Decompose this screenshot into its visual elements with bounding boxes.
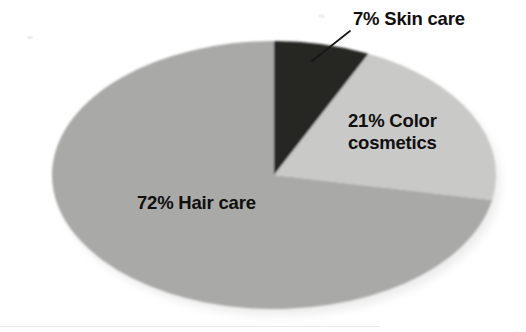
pie-label-color-cosmetics-line1: 21% Color: [348, 110, 437, 131]
pie-label-color-cosmetics: 21% Colorcosmetics: [348, 110, 437, 154]
pie-grain-overlay: [52, 41, 496, 309]
scan-speck-icon: [27, 36, 33, 39]
scan-baseline-artifact: [0, 326, 380, 327]
pie-label-skin-care: 7% Skin care: [353, 8, 465, 30]
pie-chart-figure: 7% Skin care 21% Colorcosmetics 72% Hair…: [0, 0, 526, 332]
pie-label-color-cosmetics-line2: cosmetics: [348, 132, 437, 154]
pie-chart-svg: [0, 0, 526, 332]
scan-speck-icon: [318, 14, 325, 18]
pie-label-hair-care: 72% Hair care: [137, 192, 256, 214]
